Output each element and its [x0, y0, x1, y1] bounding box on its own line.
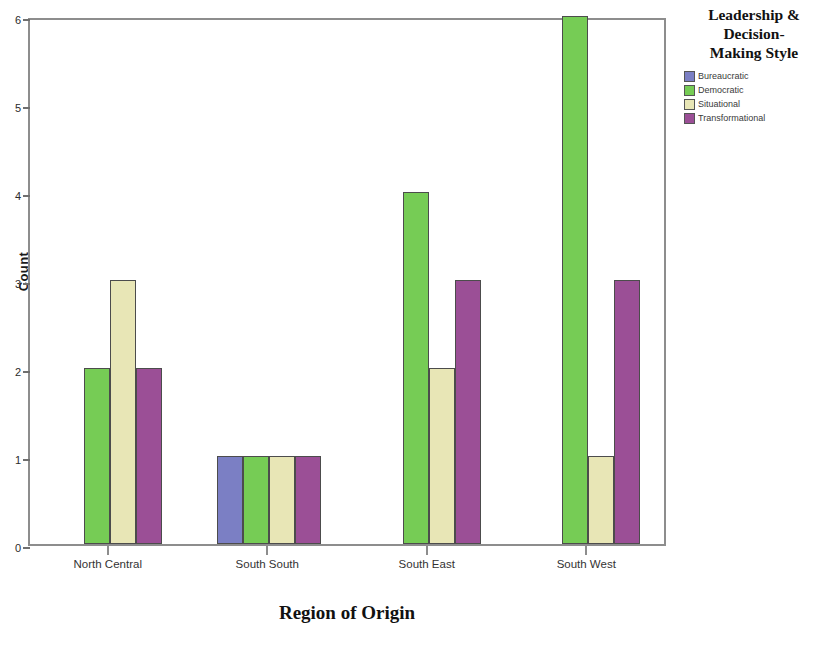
x-tick-label: North Central	[74, 558, 142, 570]
legend-color-swatch	[684, 113, 695, 124]
bar	[136, 368, 162, 544]
y-tick-mark	[23, 459, 30, 461]
legend-color-swatch	[684, 71, 695, 82]
x-tick-label: South West	[557, 558, 616, 570]
x-tick-mark	[107, 546, 109, 555]
y-tick-mark	[23, 19, 30, 21]
bar-group	[377, 20, 481, 544]
legend-color-swatch	[684, 85, 695, 96]
bar	[429, 368, 455, 544]
legend: Leadership &Decision-Making Style Bureau…	[676, 6, 832, 126]
legend-items: BureaucraticDemocraticSituationalTransfo…	[676, 70, 832, 125]
bar	[110, 280, 136, 544]
x-tick-mark	[266, 546, 268, 555]
legend-title-line: Leadership &	[678, 6, 830, 25]
y-tick-mark	[23, 371, 30, 373]
bar	[614, 280, 640, 544]
bar	[588, 456, 614, 544]
legend-title: Leadership &Decision-Making Style	[676, 6, 832, 63]
bar	[455, 280, 481, 544]
x-tick-label: South East	[399, 558, 455, 570]
bar-group	[217, 20, 321, 544]
x-axis-title: Region of Origin	[28, 602, 666, 624]
legend-item: Transformational	[684, 112, 832, 125]
x-axis-ticks: North CentralSouth SouthSouth EastSouth …	[28, 546, 666, 592]
bar-chart-figure: Count 0123456 North CentralSouth SouthSo…	[0, 0, 834, 646]
legend-color-swatch	[684, 99, 695, 110]
y-tick-mark	[23, 195, 30, 197]
x-tick-mark	[426, 546, 428, 555]
bar-series-container	[30, 20, 664, 544]
plot-area: 0123456	[28, 18, 666, 546]
bar	[243, 456, 269, 544]
y-tick-mark	[23, 107, 30, 109]
bar	[295, 456, 321, 544]
x-tick-mark	[585, 546, 587, 555]
bar	[562, 16, 588, 544]
legend-title-line: Making Style	[678, 44, 830, 63]
bar-group	[58, 20, 162, 544]
legend-item-label: Bureaucratic	[698, 72, 749, 81]
legend-item: Bureaucratic	[684, 70, 832, 83]
legend-item: Democratic	[684, 84, 832, 97]
bar	[403, 192, 429, 544]
x-tick-label: South South	[236, 558, 299, 570]
legend-item-label: Democratic	[698, 86, 744, 95]
legend-title-line: Decision-	[678, 25, 830, 44]
bar	[269, 456, 295, 544]
bar	[84, 368, 110, 544]
legend-item-label: Transformational	[698, 114, 765, 123]
bar	[217, 456, 243, 544]
y-tick-mark	[23, 283, 30, 285]
bar-group	[536, 20, 640, 544]
legend-item: Situational	[684, 98, 832, 111]
legend-item-label: Situational	[698, 100, 740, 109]
